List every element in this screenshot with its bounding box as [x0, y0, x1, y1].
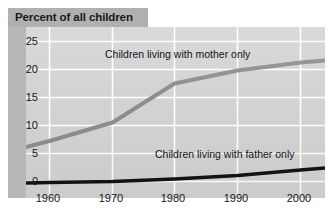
series-label-father: Children living with father only [155, 148, 294, 160]
chart-figure: Percent of all children [0, 0, 333, 220]
x-tick-1970: 1970 [89, 192, 133, 204]
x-tick-1990: 1990 [214, 192, 258, 204]
x-tick-1960: 1960 [26, 192, 70, 204]
series-label-mother: Children living with mother only [105, 48, 250, 60]
y-tick-15: 15 [12, 92, 38, 103]
x-tick-2000: 2000 [277, 192, 321, 204]
y-tick-25: 25 [12, 36, 38, 47]
x-tick-1980: 1980 [151, 192, 195, 204]
y-tick-0: 0 [12, 176, 38, 187]
y-tick-5: 5 [12, 148, 38, 159]
y-tick-20: 20 [12, 64, 38, 75]
y-tick-10: 10 [12, 120, 38, 131]
y-axis-labels: 25 20 15 10 5 0 1960 1970 1980 1990 2000… [0, 0, 333, 220]
